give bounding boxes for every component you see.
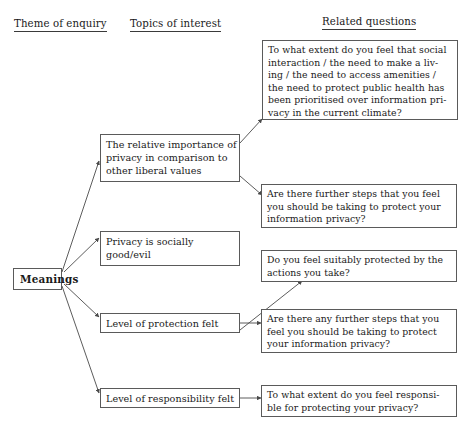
diagram-canvas: Theme of enquiry Topics of interest Rela… [0, 0, 473, 433]
node-line: good/evil [106, 248, 235, 261]
node-topic-socially-good-evil[interactable]: Privacy is socially good/evil [100, 231, 240, 266]
node-line: Are there any further steps that you [267, 313, 452, 326]
edge-meanings-to-relative-importance [62, 161, 99, 272]
node-line: you should be taking to protect your [267, 201, 452, 214]
column-header-topics-of-interest: Topics of interest [130, 18, 221, 32]
edge-meanings-to-level-of-protection [64, 284, 99, 317]
node-line: actions you take? [267, 267, 452, 280]
node-topic-relative-importance[interactable]: The relative importance of privacy in co… [100, 134, 240, 182]
node-meanings[interactable]: Meanings [13, 268, 62, 290]
node-line: been prioritised over information pri- [268, 94, 453, 107]
node-line: ing / the need to access amenities / [268, 69, 453, 82]
node-line: Level of responsibility felt [106, 392, 235, 405]
node-line: interaction / the need to make a liv- [268, 57, 453, 70]
node-topic-level-of-responsibility[interactable]: Level of responsibility felt [100, 388, 240, 408]
node-topic-level-of-protection[interactable]: Level of protection felt [100, 313, 240, 333]
node-line: vacy in the current climate? [268, 107, 453, 120]
edge-meanings-to-socially-good-evil [64, 238, 99, 272]
node-line: To what extent do you feel that social [268, 44, 453, 57]
column-header-related-questions: Related questions [322, 16, 416, 30]
node-question-suitably-protected[interactable]: Do you feel suitably protected by the ac… [261, 250, 457, 282]
edge-relative-importance-to-q1 [240, 119, 262, 143]
node-line: Privacy is socially [106, 235, 235, 248]
edge-relative-importance-to-q2 [240, 176, 262, 195]
node-question-any-further-steps[interactable]: Are there any further steps that you fee… [261, 309, 457, 353]
node-line: the need to protect public health has [268, 82, 453, 95]
node-line: feel you should be taking to protect [267, 326, 452, 339]
column-header-theme-of-enquiry: Theme of enquiry [14, 18, 107, 32]
node-line: other liberal values [106, 164, 235, 177]
node-question-further-steps-protect[interactable]: Are there further steps that you feel yo… [261, 184, 457, 228]
node-question-prioritised-over-privacy[interactable]: To what extent do you feel that social i… [262, 40, 458, 120]
node-line: Level of protection felt [106, 317, 235, 330]
node-line: Do you feel suitably protected by the [267, 254, 452, 267]
node-line: Are there further steps that you feel [267, 188, 452, 201]
node-line: The relative importance of [106, 138, 235, 151]
node-line: your information privacy? [267, 338, 452, 351]
edge-meanings-to-level-of-responsibility [62, 286, 99, 393]
node-line: To what extent do you feel responsi- [267, 389, 452, 402]
node-line: privacy in comparison to [106, 151, 235, 164]
node-line: information privacy? [267, 213, 452, 226]
node-line: ble for protecting your privacy? [267, 402, 452, 415]
node-question-responsible-for-protecting[interactable]: To what extent do you feel responsi- ble… [261, 385, 457, 417]
